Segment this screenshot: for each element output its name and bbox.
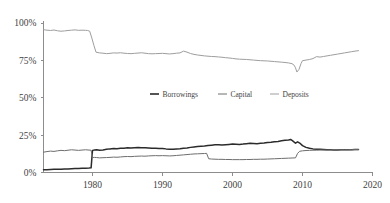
line-chart-svg: 0%25%50%75%100% 19801990200020102020 Bor… bbox=[0, 0, 390, 203]
x-tick-label: 2010 bbox=[293, 180, 312, 190]
x-tick-label: 1980 bbox=[83, 180, 102, 190]
legend-label-borrowings: Borrowings bbox=[163, 90, 198, 99]
legend-label-deposits: Deposits bbox=[283, 90, 309, 99]
legend-label-capital: Capital bbox=[231, 90, 253, 99]
x-tick-label: 2020 bbox=[363, 180, 382, 190]
series-line-deposits bbox=[44, 30, 359, 72]
y-tick-label: 25% bbox=[19, 131, 37, 141]
y-axis-tick-labels: 0%25%50%75%100% bbox=[14, 18, 36, 178]
x-tick-label: 1990 bbox=[153, 180, 172, 190]
chart-legend: BorrowingsCapitalDeposits bbox=[150, 90, 309, 99]
x-tick-label: 2000 bbox=[223, 180, 242, 190]
series-line-borrowings bbox=[44, 139, 359, 169]
y-tick-label: 100% bbox=[14, 18, 36, 28]
data-series-group bbox=[44, 30, 359, 170]
x-axis-tick-labels: 19801990200020102020 bbox=[83, 180, 382, 190]
y-tick-label: 50% bbox=[19, 93, 37, 103]
chart-container: 0%25%50%75%100% 19801990200020102020 Bor… bbox=[0, 0, 390, 203]
y-tick-label: 75% bbox=[19, 56, 37, 66]
series-line-capital bbox=[44, 150, 359, 160]
axis-tick-marks bbox=[41, 23, 373, 176]
y-tick-label: 0% bbox=[24, 168, 37, 178]
